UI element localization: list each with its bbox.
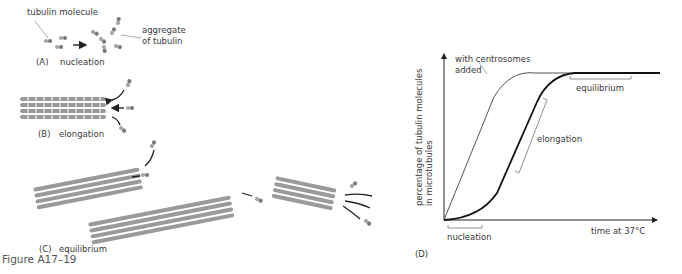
panel-a-artwork bbox=[35, 17, 141, 54]
figure-caption: Figure A17–19 bbox=[2, 253, 77, 265]
tubulin-molecule-label: tubulin molecule bbox=[27, 8, 98, 17]
equilibrium-annotation: equilibrium bbox=[576, 84, 624, 93]
panel-c-artwork bbox=[33, 140, 372, 245]
panel-b-title: elongation bbox=[59, 130, 104, 139]
elongation-annotation: elongation bbox=[537, 135, 582, 144]
aggregate-label-line2: of tubulin bbox=[142, 37, 183, 46]
panel-b-artwork bbox=[20, 79, 134, 134]
centrosomes-annotation-line2: added bbox=[455, 66, 482, 75]
y-axis-label: percentage of tubulin molecules in micro… bbox=[415, 69, 435, 206]
x-axis-label: time at 37°C bbox=[591, 227, 645, 236]
panel-a-title: nucleation bbox=[60, 58, 105, 67]
panel-b-tag: (B) bbox=[38, 130, 50, 139]
panel-d-tag: (D) bbox=[415, 250, 428, 259]
centrosomes-annotation-line1: with centrosomes bbox=[455, 55, 530, 64]
y-axis-label-line2: in microtubules bbox=[425, 69, 435, 206]
nucleation-annotation: nucleation bbox=[447, 233, 492, 242]
panel-a-tag: (A) bbox=[36, 58, 48, 67]
aggregate-label-line1: aggregate bbox=[142, 26, 186, 35]
